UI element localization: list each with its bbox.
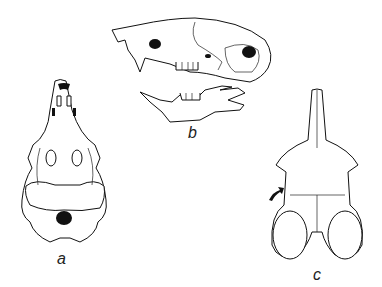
orbit-dark xyxy=(149,39,161,49)
panel-a-skull xyxy=(22,80,107,243)
label-b: b xyxy=(188,124,197,142)
foramen-magnum xyxy=(56,211,72,225)
auditory-bulla-dark xyxy=(242,46,256,58)
skull-illustrations xyxy=(0,0,382,287)
arrow-icon xyxy=(269,187,284,201)
label-a: a xyxy=(57,250,66,268)
panel-c-skull xyxy=(269,89,363,259)
panel-b-mandible xyxy=(140,86,245,122)
panel-b-skull xyxy=(112,18,271,82)
label-c: c xyxy=(313,266,321,284)
